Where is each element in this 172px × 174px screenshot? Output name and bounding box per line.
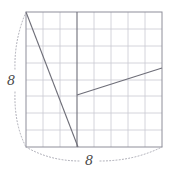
height-dimension-bracket [15, 12, 26, 147]
width-bracket-right [100, 147, 162, 161]
height-bracket-upper [15, 12, 26, 70]
figure-canvas [0, 0, 172, 174]
height-dimension-label: 8 [7, 74, 15, 87]
geometry-figure: 8 8 [0, 0, 172, 174]
width-dimension-bracket [26, 147, 162, 161]
descending-diagonal-segment [26, 12, 78, 147]
width-bracket-left [26, 147, 80, 161]
ascending-diagonal-segment [77, 68, 162, 95]
grid-vertical-lines [43, 12, 145, 147]
height-bracket-lower [15, 92, 26, 147]
width-dimension-label: 8 [85, 154, 93, 167]
